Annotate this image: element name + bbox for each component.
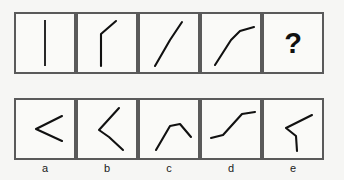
sequence-panel-4 (200, 12, 262, 74)
shape-diagonal-with-top-bend (140, 14, 198, 72)
shape-diagonal-with-flat-top (202, 14, 260, 72)
shape-path (286, 115, 312, 151)
option-label-b: b (76, 162, 138, 174)
question-mark-icon: ? (264, 14, 322, 72)
option-panel-d[interactable] (200, 98, 262, 160)
shape-path (215, 27, 254, 65)
option-label-e: e (262, 162, 324, 174)
sequence-panel-2 (76, 12, 138, 74)
sequence-panel-1 (14, 12, 76, 74)
shape-bent-chevron-down-right (78, 100, 136, 158)
option-panel-b[interactable] (76, 98, 138, 160)
option-panel-a[interactable] (14, 98, 76, 160)
shape-flat-rise-flat (202, 100, 260, 158)
option-label-a: a (14, 162, 76, 174)
shape-path (36, 116, 62, 141)
shape-vertical-line-with-small-top-bend (78, 14, 136, 72)
visual-reasoning-puzzle: ? a b c d e (0, 0, 344, 180)
shape-less-than-chevron (16, 100, 74, 158)
shape-path (155, 22, 182, 66)
sequence-panel-5-unknown: ? (262, 12, 324, 74)
shape-vertical-line (16, 14, 74, 72)
option-label-c: c (138, 162, 200, 174)
option-label-d: d (200, 162, 262, 174)
shape-peak-then-down-right (140, 100, 198, 158)
shape-chevron-with-vertical-tail (264, 100, 322, 158)
option-panel-e[interactable] (262, 98, 324, 160)
sequence-panel-3 (138, 12, 200, 74)
shape-path (99, 108, 123, 150)
shape-path (211, 112, 255, 138)
shape-path (101, 21, 116, 66)
option-panel-c[interactable] (138, 98, 200, 160)
shape-path (156, 124, 191, 150)
